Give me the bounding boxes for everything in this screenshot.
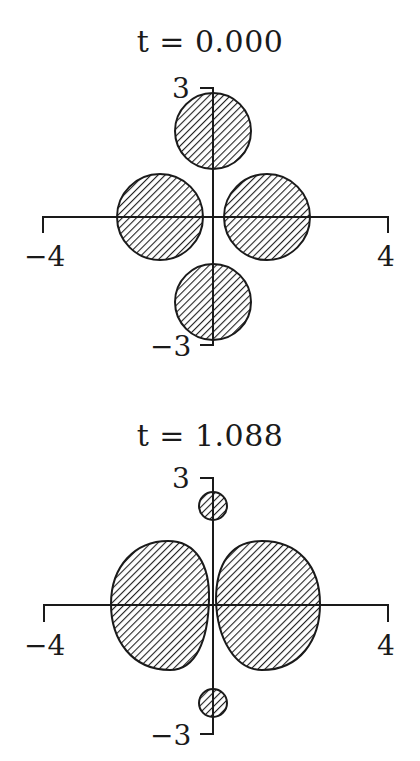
y-max-label: 3 xyxy=(172,72,190,105)
y-min-label: −3 xyxy=(150,330,191,363)
x-axis xyxy=(43,217,388,233)
x-max-label: 4 xyxy=(377,240,395,273)
x-min-label: −4 xyxy=(24,629,65,662)
panel-2-title: t = 1.088 xyxy=(0,418,420,453)
figure-canvas: −4 4 3 −3 −4 4 3 −3 xyxy=(0,0,420,761)
y-min-label: −3 xyxy=(150,719,191,752)
panel-2-plot: −4 4 3 −3 xyxy=(24,462,395,752)
y-max-label: 3 xyxy=(172,462,190,495)
panel-1-title: t = 0.000 xyxy=(0,24,420,59)
x-min-label: −4 xyxy=(24,240,65,273)
panel-1-plot: −4 4 3 −3 xyxy=(24,72,395,363)
x-max-label: 4 xyxy=(377,629,395,662)
